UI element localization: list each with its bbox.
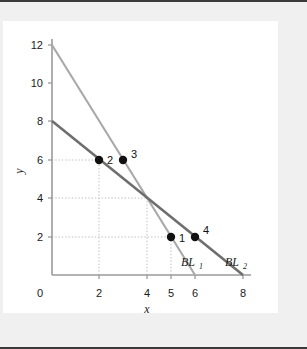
y-tick-label-2: 2 <box>37 231 43 243</box>
data-point-label-3: 3 <box>131 148 137 160</box>
series-label-bl2-sub: 2 <box>243 262 247 271</box>
data-point-2[interactable] <box>95 156 103 164</box>
y-tick-label-4: 4 <box>37 192 43 204</box>
x-tick-label-2: 2 <box>96 287 102 299</box>
series-label-bl2: BL 2 <box>225 255 247 271</box>
x-axis-label: x <box>143 302 150 313</box>
chart-panel: 12 10 8 6 4 2 0 2 4 5 6 8 <box>3 21 278 313</box>
axes <box>52 39 251 275</box>
y-tick-label-6: 6 <box>37 154 43 166</box>
data-point-4[interactable] <box>191 233 199 241</box>
y-tick-label-0: 0 <box>37 287 43 299</box>
series-label-bl2-text: BL <box>225 255 239 269</box>
x-tick-label-4: 4 <box>144 287 150 299</box>
data-point-3[interactable] <box>119 156 127 164</box>
series-label-bl1: BL 1 <box>181 255 203 271</box>
data-point-1[interactable] <box>167 233 175 241</box>
guide-lines <box>52 160 171 275</box>
data-point-label-2: 2 <box>107 154 113 166</box>
y-tick-label-12: 12 <box>31 39 43 51</box>
y-tick-label-10: 10 <box>31 77 43 89</box>
series-label-bl1-sub: 1 <box>199 262 203 271</box>
x-tick-label-6: 6 <box>192 287 198 299</box>
figure-root: 12 10 8 6 4 2 0 2 4 5 6 8 <box>0 0 307 349</box>
x-tick-label-5: 5 <box>168 287 174 299</box>
data-point-label-4: 4 <box>203 224 209 236</box>
data-point-label-1: 1 <box>179 232 185 244</box>
y-tick-label-8: 8 <box>37 115 43 127</box>
x-tick-label-8: 8 <box>240 287 246 299</box>
budget-line-chart: 12 10 8 6 4 2 0 2 4 5 6 8 <box>3 21 278 313</box>
y-axis-label: y <box>12 168 26 175</box>
series-label-bl1-text: BL <box>181 255 195 269</box>
